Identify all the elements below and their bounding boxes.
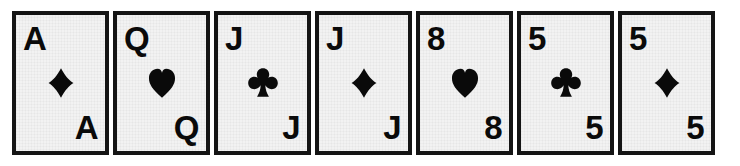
card-rank-bottom: 5 xyxy=(686,111,704,144)
card-rank-top: A xyxy=(23,22,46,55)
card-rank-top: J xyxy=(225,22,243,55)
card-rank-top: 5 xyxy=(629,22,647,55)
card-rank-top: 5 xyxy=(528,22,546,55)
card-rank-bottom: 8 xyxy=(484,111,502,144)
playing-card[interactable]: JJ xyxy=(214,11,311,155)
diamond-icon xyxy=(622,67,711,99)
playing-card[interactable]: 88 xyxy=(416,11,513,155)
card-rank-bottom: J xyxy=(282,111,300,144)
club-icon xyxy=(218,67,307,99)
card-rank-top: 8 xyxy=(427,22,445,55)
card-rank-bottom: 5 xyxy=(585,111,603,144)
playing-card[interactable]: JJ xyxy=(315,11,412,155)
playing-card[interactable]: AA xyxy=(12,11,109,155)
heart-icon xyxy=(117,67,206,99)
playing-card-row: AAQQJJJJ885555 xyxy=(0,0,740,166)
diamond-icon xyxy=(319,67,408,99)
heart-icon xyxy=(420,67,509,99)
card-rank-bottom: Q xyxy=(174,111,199,144)
card-rank-top: Q xyxy=(124,22,149,55)
card-rank-bottom: A xyxy=(75,111,98,144)
diamond-icon xyxy=(16,67,105,99)
playing-card[interactable]: 55 xyxy=(517,11,614,155)
playing-card[interactable]: 55 xyxy=(618,11,715,155)
card-rank-top: J xyxy=(326,22,344,55)
card-rank-bottom: J xyxy=(383,111,401,144)
playing-card[interactable]: QQ xyxy=(113,11,210,155)
club-icon xyxy=(521,67,610,99)
